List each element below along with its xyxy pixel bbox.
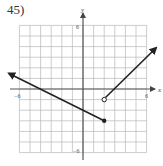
y-max-label: 6	[76, 24, 79, 30]
x-min-label: −6	[14, 93, 20, 99]
y-min-label: −6	[73, 148, 79, 154]
y-axis-label: y	[80, 6, 85, 14]
x-axis-label: x	[157, 86, 162, 94]
coordinate-graph: x y −6 6 6 −6	[0, 0, 163, 166]
closed-endpoint	[102, 119, 106, 123]
open-endpoint	[102, 97, 106, 101]
left-ray	[9, 74, 104, 121]
right-ray	[106, 48, 157, 98]
x-max-label: 6	[145, 93, 148, 99]
